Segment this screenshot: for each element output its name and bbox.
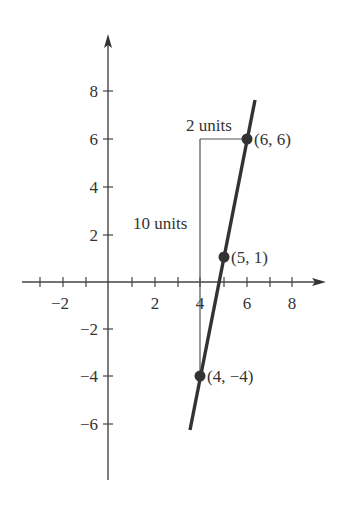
point-marker — [219, 252, 230, 263]
x-axis: −2 2 4 6 8 — [22, 277, 326, 313]
y-tick-label: 8 — [90, 82, 99, 101]
slope-chart: 8 6 4 2 −2 −4 −6 −2 2 4 6 8 2 units 10 u… — [0, 0, 340, 511]
y-tick-label: 6 — [90, 130, 99, 149]
point-label: (6, 6) — [254, 130, 291, 149]
y-tick-label: −4 — [80, 367, 99, 386]
x-tick-label: 6 — [243, 294, 252, 313]
x-tick-label: −2 — [51, 294, 69, 313]
y-tick-label: 4 — [90, 178, 99, 197]
run-label: 2 units — [186, 116, 232, 135]
x-tick-label: 2 — [151, 294, 160, 313]
y-tick-label: 2 — [90, 226, 99, 245]
point-marker — [195, 371, 206, 382]
y-axis: 8 6 4 2 −2 −4 −6 — [80, 34, 113, 480]
y-tick-label: −6 — [80, 415, 98, 434]
point-label: (5, 1) — [231, 248, 268, 267]
point-marker — [242, 134, 253, 145]
point-label: (4, −4) — [207, 367, 253, 386]
slope-triangle: 2 units 10 units — [133, 116, 247, 376]
y-tick-label: −2 — [80, 320, 98, 339]
x-tick-label: 8 — [288, 294, 297, 313]
rise-label: 10 units — [133, 214, 187, 233]
